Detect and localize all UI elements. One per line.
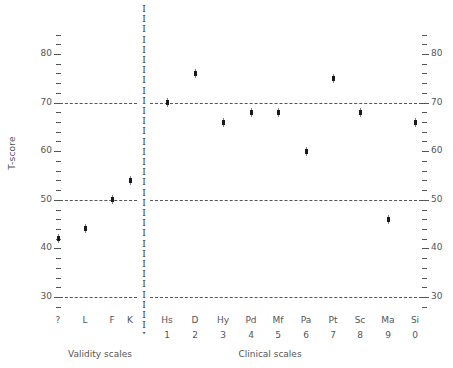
x-tick-label-ma: Ma	[375, 315, 401, 325]
x-tick-label-l: L	[72, 315, 98, 325]
x-tick-label-pa: Pa	[293, 315, 319, 325]
x-tick-label-mf: Mf	[265, 315, 291, 325]
x-axis: ?LFKHs1D2Hy3Pd4Mf5Pa6Pt7Sc8Ma9Si0	[0, 0, 453, 368]
x-tick-number-si: 0	[402, 330, 428, 340]
x-tick-label-sc: Sc	[347, 315, 373, 325]
x-tick-label-q: ?	[45, 315, 71, 325]
x-tick-number-pt: 7	[320, 330, 346, 340]
x-tick-number-hs: 1	[154, 330, 180, 340]
group-label-validity: Validity scales	[55, 349, 145, 359]
x-tick-number-pa: 6	[293, 330, 319, 340]
x-tick-label-pd: Pd	[238, 315, 264, 325]
x-tick-number-pd: 4	[238, 330, 264, 340]
x-tick-number-mf: 5	[265, 330, 291, 340]
group-label-clinical: Clinical scales	[225, 349, 315, 359]
x-tick-label-si: Si	[402, 315, 428, 325]
x-tick-number-sc: 8	[347, 330, 373, 340]
x-tick-number-d: 2	[182, 330, 208, 340]
mmpi-profile-chart: T-score 304050607080 304050607080 I I I …	[0, 0, 453, 368]
x-tick-number-ma: 9	[375, 330, 401, 340]
x-tick-number-hy: 3	[210, 330, 236, 340]
x-tick-label-d: D	[182, 315, 208, 325]
x-tick-label-hs: Hs	[154, 315, 180, 325]
x-tick-label-hy: Hy	[210, 315, 236, 325]
x-tick-label-k: K	[117, 315, 143, 325]
x-tick-label-pt: Pt	[320, 315, 346, 325]
